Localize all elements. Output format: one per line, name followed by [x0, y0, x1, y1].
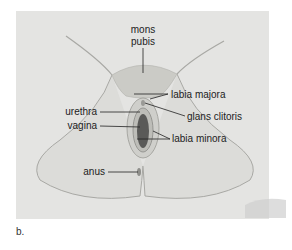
label-mons-pubis-2: pubis — [131, 36, 155, 47]
label-labia-minora: labia minora — [172, 133, 227, 144]
label-urethra: urethra — [65, 106, 97, 117]
label-anus: anus — [83, 166, 105, 177]
label-vagina: vagina — [68, 120, 98, 131]
vaginal-opening — [137, 114, 149, 148]
panel-label: b. — [16, 226, 24, 237]
anatomy-diagram: mons pubis labia majora glans clitoris u… — [0, 0, 292, 250]
clitoris-shape — [141, 100, 145, 106]
label-labia-majora: labia majora — [171, 89, 226, 100]
label-mons-pubis-1: mons — [131, 24, 155, 35]
label-glans-clitoris: glans clitoris — [187, 111, 242, 122]
